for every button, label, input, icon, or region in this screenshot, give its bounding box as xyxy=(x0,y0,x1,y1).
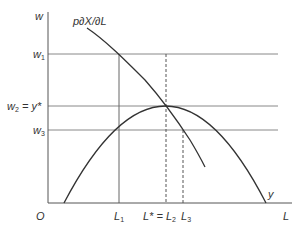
w3-label: w3 xyxy=(33,124,45,137)
lstar-label: L* = L2 xyxy=(143,210,176,223)
l3-label: L3 xyxy=(181,210,191,223)
mrp-label: p∂X/∂L xyxy=(72,15,107,27)
mrp-curve xyxy=(87,28,205,167)
output-curve xyxy=(64,106,266,203)
labor-demand-diagram: w L O p∂X/∂L y w1 w2 = y* w3 L1 L* = L2 … xyxy=(0,0,304,227)
w1-label: w1 xyxy=(33,48,45,61)
y-axis-label: w xyxy=(35,10,44,22)
x-axis-label: L xyxy=(283,210,289,222)
parabola-label: y xyxy=(267,188,275,200)
l1-label: L1 xyxy=(114,210,124,223)
origin-label: O xyxy=(36,210,45,222)
w2-label: w2 = y* xyxy=(7,100,42,113)
